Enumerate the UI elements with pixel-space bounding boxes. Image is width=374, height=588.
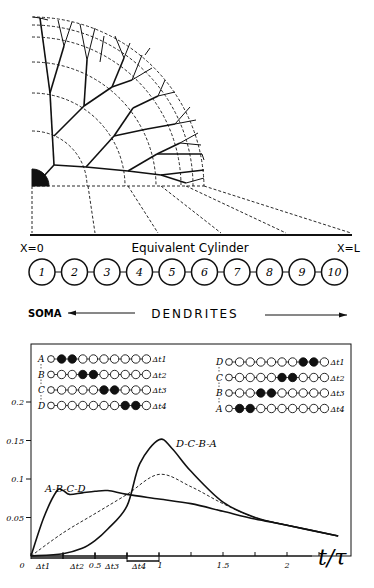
active-compartment: [299, 358, 307, 366]
inactive-compartment: [310, 373, 318, 381]
inactive-compartment: [246, 373, 254, 381]
interval-label: Δt1: [329, 358, 344, 367]
arrow-left-head: [68, 311, 76, 316]
inactive-compartment: [121, 370, 129, 378]
inactive-compartment: [100, 355, 108, 363]
x-tick-label: 0: [19, 561, 24, 570]
inactive-compartment: [68, 386, 76, 394]
soma: [32, 169, 49, 186]
inactive-compartment: [48, 402, 55, 409]
active-compartment: [100, 386, 108, 394]
inactive-compartment: [142, 401, 150, 409]
active-compartment: [132, 401, 140, 409]
active-compartment: [310, 358, 318, 366]
curve-d-c-b-a: [31, 439, 338, 556]
inactive-compartment: [79, 355, 87, 363]
inactive-compartment: [48, 356, 55, 363]
dendritic-tree: [32, 17, 204, 186]
interval-label: Δt4: [151, 402, 166, 411]
y-tick-label: 0.1: [11, 475, 24, 484]
compartment-chain: 12345678910: [29, 259, 348, 285]
sequence-letter: D: [215, 357, 223, 367]
inactive-compartment: [320, 389, 328, 397]
compartment-label: 8: [266, 266, 273, 279]
active-compartment: [57, 355, 65, 363]
inactive-compartment: [79, 401, 87, 409]
figure: X=0 Equivalent Cylinder X=L 12345678910 …: [0, 0, 374, 588]
active-compartment: [89, 370, 97, 378]
inactive-compartment: [320, 404, 328, 412]
inactive-compartment: [89, 355, 97, 363]
interval-label: Δt2: [69, 562, 84, 571]
arrow-right-head: [339, 313, 347, 318]
y-tick-label: 0.2: [11, 398, 24, 407]
chart: 0.050.10.150.2 00.511.52 Δt1Δt2Δt3Δt4 AΔ…: [6, 344, 351, 571]
active-compartment: [246, 404, 254, 412]
compartment-label: 10: [328, 266, 342, 279]
active-compartment: [267, 389, 275, 397]
y-tick-label: 0.15: [6, 437, 24, 446]
inactive-compartment: [57, 370, 65, 378]
inactive-compartment: [257, 358, 265, 366]
inactive-compartment: [110, 370, 118, 378]
inactive-compartment: [267, 404, 275, 412]
inactive-compartment: [226, 359, 233, 366]
interval-label: Δt3: [104, 562, 119, 571]
interval-label: Δt2: [151, 371, 166, 380]
inactive-compartment: [299, 373, 307, 381]
sequence-table-left: AΔt1BΔt2CΔt3DΔt4: [37, 354, 166, 411]
inactive-compartment: [226, 405, 233, 412]
inactive-compartment: [235, 373, 243, 381]
xl-label: X=L: [337, 242, 361, 255]
inactive-compartment: [89, 386, 97, 394]
inactive-compartment: [110, 401, 118, 409]
inactive-compartment: [100, 370, 108, 378]
curves: [31, 439, 338, 556]
compartment-label: 1: [39, 266, 46, 279]
y-axis-ticks: 0.050.10.150.2: [6, 398, 31, 523]
sequence-letter: D: [37, 401, 45, 411]
compartment-label: 5: [169, 266, 176, 279]
active-compartment: [68, 355, 76, 363]
compartment-label: 3: [104, 266, 111, 279]
interval-label: Δt1: [35, 562, 50, 571]
y-tick-label: 0.05: [6, 514, 24, 523]
inactive-compartment: [246, 389, 254, 397]
interval-label: Δt3: [329, 389, 344, 398]
inactive-compartment: [320, 373, 328, 381]
soma-label: SOMA: [28, 308, 62, 319]
active-compartment: [288, 373, 296, 381]
active-compartment: [110, 386, 118, 394]
interval-label: Δt4: [131, 562, 146, 571]
inactive-compartment: [57, 401, 65, 409]
inactive-compartment: [235, 389, 243, 397]
inactive-compartment: [121, 386, 129, 394]
active-compartment: [257, 389, 265, 397]
x0-label: X=0: [20, 242, 44, 255]
x-tick-label: 1.5: [217, 561, 230, 570]
inactive-compartment: [278, 404, 286, 412]
inactive-compartment: [246, 358, 254, 366]
inactive-compartment: [288, 389, 296, 397]
inactive-compartment: [278, 389, 286, 397]
compartment-label: 7: [234, 266, 241, 279]
inactive-compartment: [142, 386, 150, 394]
active-compartment: [79, 370, 87, 378]
inactive-compartment: [288, 358, 296, 366]
inactive-compartment: [142, 370, 150, 378]
inactive-compartment: [257, 373, 265, 381]
dendrites-label: DENDRITES: [151, 307, 238, 321]
inactive-compartment: [267, 373, 275, 381]
inactive-compartment: [110, 355, 118, 363]
interval-label: Δt2: [329, 374, 344, 383]
sequence-table-right: DΔt1CΔt2BΔt3AΔt4: [215, 357, 344, 414]
inactive-compartment: [121, 355, 129, 363]
compartment-label: 2: [70, 266, 78, 279]
sequence-letter: B: [37, 370, 45, 380]
compartment-label: 4: [135, 266, 143, 279]
inactive-compartment: [310, 389, 318, 397]
inactive-compartment: [142, 355, 150, 363]
inactive-compartment: [89, 401, 97, 409]
interval-label: Δt3: [151, 386, 166, 395]
inactive-compartment: [68, 401, 76, 409]
